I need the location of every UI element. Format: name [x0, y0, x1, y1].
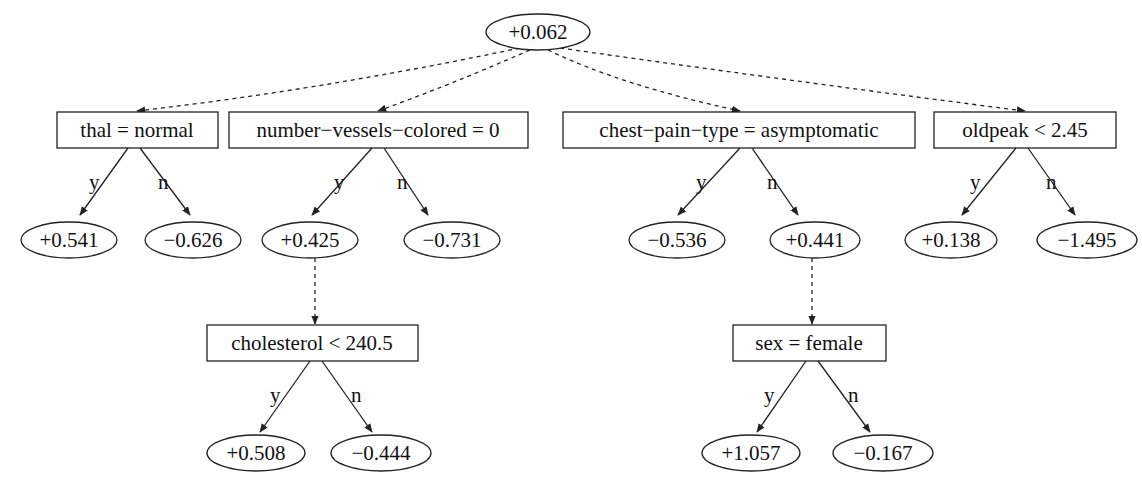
splitter-cholesterol: cholesterol < 240.5 y n +0.508 −0.444	[207, 325, 431, 471]
edge-root-to-vessels	[378, 50, 530, 111]
edge-label-yes: y	[764, 383, 775, 407]
edge-root-to-chestpain	[548, 50, 740, 111]
splitter-sex-label: sex = female	[755, 331, 862, 355]
splitter-sex: sex = female y n +1.057 −0.167	[702, 325, 933, 471]
prediction-yes: −0.536	[647, 228, 706, 252]
edge-label-no: n	[397, 170, 408, 194]
splitter-oldpeak: oldpeak < 2.45 y n +0.138 −1.495	[905, 112, 1137, 258]
splitter-vessels-label: number−vessels−colored = 0	[256, 118, 499, 142]
prediction-no: −1.495	[1057, 228, 1116, 252]
root-prediction-value: +0.062	[508, 20, 567, 44]
prediction-no: +0.441	[785, 228, 844, 252]
edge-label-no: n	[1046, 170, 1057, 194]
splitter-thal-label: thal = normal	[80, 118, 193, 142]
prediction-no: −0.444	[351, 441, 411, 465]
edge-label-yes: y	[970, 170, 981, 194]
prediction-yes: +1.057	[721, 441, 780, 465]
root-prediction-node: +0.062	[486, 14, 590, 50]
prediction-yes: +0.138	[921, 228, 980, 252]
decision-tree-diagram: +0.062 thal = normal y n +0.541 −0.626 n…	[0, 0, 1142, 497]
edge-label-yes: y	[270, 383, 281, 407]
prediction-yes: +0.425	[280, 228, 339, 252]
prediction-yes: +0.508	[226, 441, 285, 465]
prediction-no: −0.167	[853, 441, 912, 465]
splitter-chestpain-label: chest−pain−type = asymptomatic	[599, 118, 878, 142]
splitter-vessels: number−vessels−colored = 0 y n +0.425 −0…	[229, 112, 528, 258]
edge-label-no: n	[767, 170, 778, 194]
edge-label-no: n	[848, 383, 859, 407]
splitter-oldpeak-label: oldpeak < 2.45	[962, 118, 1088, 142]
splitter-thal: thal = normal y n +0.541 −0.626	[21, 112, 241, 258]
edge-label-no: n	[351, 383, 362, 407]
splitter-chestpain: chest−pain−type = asymptomatic y n −0.53…	[563, 112, 915, 258]
edge-label-yes: y	[696, 170, 707, 194]
edge-label-no: n	[158, 170, 169, 194]
edge-label-yes: y	[334, 170, 345, 194]
prediction-yes: +0.541	[39, 228, 98, 252]
splitter-cholesterol-label: cholesterol < 240.5	[231, 331, 393, 355]
edge-label-yes: y	[89, 170, 100, 194]
prediction-no: −0.731	[422, 228, 481, 252]
prediction-no: −0.626	[163, 228, 222, 252]
edge-root-to-oldpeak	[560, 48, 1025, 111]
edge-root-to-thal	[137, 48, 520, 111]
root-edges	[137, 48, 1025, 111]
